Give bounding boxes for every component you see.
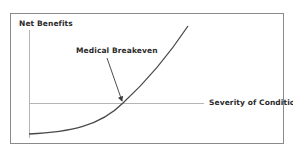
breakeven-arrow-icon	[107, 58, 122, 101]
x-axis-label: Severity of Condition	[209, 98, 293, 107]
y-axis-label: Net Benefits	[19, 19, 73, 28]
breakeven-annotation-label: Medical Breakeven	[76, 46, 158, 55]
net-benefits-curve	[29, 26, 188, 134]
